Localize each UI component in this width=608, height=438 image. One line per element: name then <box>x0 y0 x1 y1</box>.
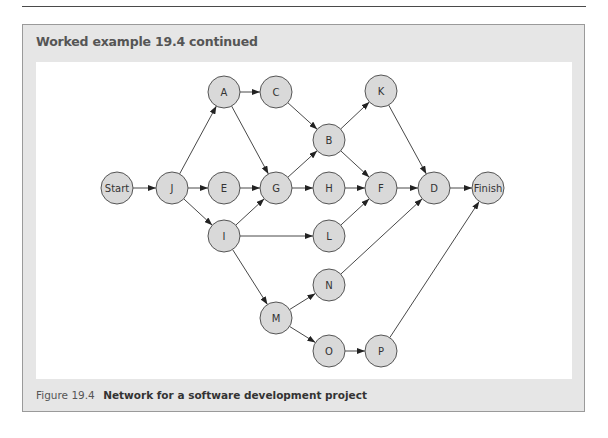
node-o: O <box>313 335 345 367</box>
node-a: A <box>208 76 240 108</box>
node-i: I <box>208 220 240 252</box>
node-label: J <box>170 183 174 194</box>
edge-p-finish <box>390 201 479 337</box>
edges-layer <box>133 92 479 351</box>
edge-b-k <box>341 102 370 129</box>
node-b: B <box>313 124 345 156</box>
node-m: M <box>260 302 292 334</box>
node-f: F <box>365 172 397 204</box>
node-label: K <box>378 86 385 97</box>
node-label: M <box>272 313 281 324</box>
nodes-layer: StartJAEICGMBHLNOKFPDFinish <box>101 75 504 367</box>
node-c: C <box>260 76 292 108</box>
node-l: L <box>313 220 345 252</box>
edge-b-f <box>341 151 369 177</box>
edge-c-b <box>288 103 317 130</box>
node-label: G <box>272 183 280 194</box>
edge-j-i <box>184 199 212 225</box>
node-label: H <box>325 183 333 194</box>
edge-j-a <box>180 106 217 174</box>
node-g: G <box>260 172 292 204</box>
node-finish: Finish <box>472 172 504 204</box>
node-label: P <box>378 346 384 357</box>
node-n: N <box>313 269 345 301</box>
edge-i-g <box>236 199 264 225</box>
node-k: K <box>365 75 397 107</box>
node-e: E <box>208 172 240 204</box>
node-label: O <box>325 346 333 357</box>
node-label: C <box>273 87 280 98</box>
edge-m-n <box>290 293 316 309</box>
edge-n-d <box>341 199 422 274</box>
figure-caption: Figure 19.4 Network for a software devel… <box>36 389 367 401</box>
edge-a-g <box>232 106 269 174</box>
node-label: E <box>221 183 227 194</box>
node-p: P <box>365 335 397 367</box>
edge-k-d <box>389 105 427 174</box>
node-label: A <box>221 87 228 98</box>
edge-i-m <box>233 250 268 305</box>
node-label: Start <box>105 183 130 194</box>
node-label: F <box>378 183 384 194</box>
edge-l-f <box>341 199 369 225</box>
node-label: I <box>223 231 226 242</box>
node-d: D <box>418 172 450 204</box>
node-j: J <box>156 172 188 204</box>
node-label: Finish <box>474 183 502 194</box>
node-label: N <box>325 280 332 291</box>
edge-g-b <box>288 151 317 178</box>
network-diagram: StartJAEICGMBHLNOKFPDFinish <box>0 0 608 438</box>
node-label: B <box>326 135 333 146</box>
node-h: H <box>313 172 345 204</box>
edge-m-o <box>290 326 316 342</box>
node-start: Start <box>101 172 133 204</box>
figure-caption-text: Network for a software development proje… <box>103 389 367 401</box>
figure-number: Figure 19.4 <box>36 389 95 401</box>
node-label: D <box>430 183 438 194</box>
node-label: L <box>326 231 332 242</box>
